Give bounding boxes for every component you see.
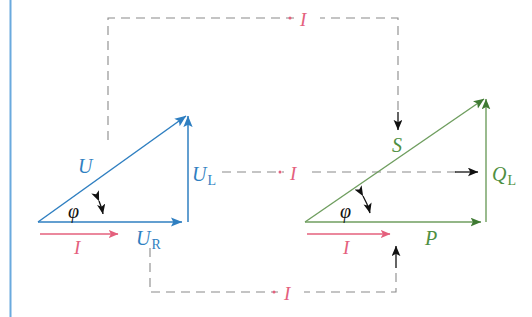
label-phi-power: φ [340,200,351,223]
label-U: U [78,155,94,177]
bottom-connector [150,246,396,292]
connector-dot-middle [279,171,282,174]
connector-dot-bottom [273,291,276,294]
connector-dot-top [289,17,292,20]
label-I-power: I [342,237,351,258]
vector-S [305,99,484,222]
label-QL: QL [492,163,516,188]
power-triangle [305,99,486,234]
figure-canvas: U UL UR S QL P φ φ I I [0,0,532,317]
vector-U [38,116,186,222]
voltage-triangle [38,116,188,234]
label-UR: UR [136,227,161,252]
label-P: P [424,227,437,249]
label-mask-middle [284,160,310,184]
label-mask-bottom [278,280,304,304]
phasor-diagram: U UL UR S QL P φ φ I I [0,0,532,317]
angle-arc-power [363,196,370,213]
angle-arc-voltage [99,201,103,214]
label-mask-top [294,6,320,30]
label-phi-voltage: φ [68,200,79,223]
label-S: S [392,134,402,156]
label-I-voltage: I [73,237,82,258]
label-UL: UL [192,163,216,188]
top-connector [108,18,398,140]
